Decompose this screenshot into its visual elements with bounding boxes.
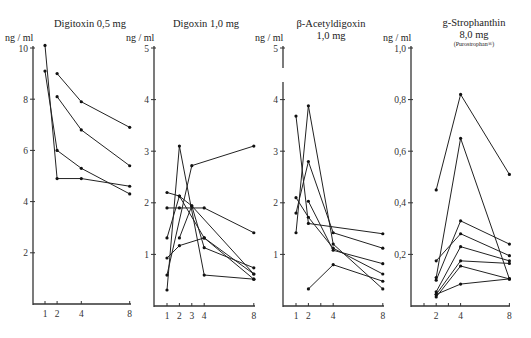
data-point [459, 264, 462, 267]
y-tick-label: 0,2 [394, 250, 406, 260]
data-point [165, 191, 168, 194]
series-4 [56, 95, 132, 167]
data-point [190, 164, 193, 167]
y-tick-label: 2 [23, 248, 28, 258]
chart-panel-2: Digoxin 1,0 mgng / ml1234512348 [126, 18, 256, 321]
x-tick-label: 1 [294, 311, 299, 321]
data-point [332, 231, 335, 234]
data-point [307, 222, 310, 225]
data-point [80, 128, 83, 131]
data-point [381, 247, 384, 250]
series-1 [43, 44, 131, 188]
cardiac-glycoside-concentration-charts: Digitoxin 0,5 mgng / ml2468101248Digoxin… [0, 0, 531, 338]
y-tick-label: 5 [144, 44, 149, 54]
data-point [435, 279, 438, 282]
panel-title: Digoxin 1,0 mg [173, 18, 240, 29]
x-tick-label: 2 [306, 311, 311, 321]
data-point [43, 69, 46, 72]
data-point [203, 246, 206, 249]
data-point [381, 280, 384, 283]
data-point [307, 216, 310, 219]
panel-subtitle: 8,0 mg [459, 29, 489, 40]
data-point [381, 262, 384, 265]
data-point [435, 188, 438, 191]
y-tick-label: 4 [144, 95, 149, 105]
data-point [43, 44, 46, 47]
data-point [56, 177, 59, 180]
x-tick-label: 2 [177, 311, 182, 321]
data-point [459, 282, 462, 285]
data-point [190, 204, 193, 207]
x-tick-label: 4 [458, 311, 463, 321]
data-point [80, 100, 83, 103]
data-point [252, 231, 255, 234]
data-point [294, 115, 297, 118]
data-point [459, 259, 462, 262]
y-tick-label: 3 [144, 147, 149, 157]
x-tick-label: 2 [434, 311, 439, 321]
data-point [178, 194, 181, 197]
data-point [80, 177, 83, 180]
data-point [128, 192, 131, 195]
y-tick-label: 6 [23, 146, 28, 156]
data-point [307, 287, 310, 290]
series-line [167, 192, 254, 274]
x-tick-label: 3 [189, 311, 194, 321]
y-axis-label: ng / ml [126, 32, 155, 43]
data-point [178, 144, 181, 147]
data-point [252, 272, 255, 275]
series-line [296, 198, 383, 274]
x-tick-label: 8 [251, 311, 256, 321]
series-1 [435, 93, 511, 192]
y-tick-label: 1 [144, 250, 149, 260]
data-point [435, 259, 438, 262]
data-point [508, 262, 511, 265]
data-point [80, 167, 83, 170]
x-tick-label: 2 [55, 309, 60, 319]
series-6 [307, 263, 385, 290]
data-point [459, 245, 462, 248]
y-tick-label: 0,6 [394, 147, 406, 157]
chart-panel-3: β-Acetyldigoxin1,0 mgng / ml123451248 [255, 18, 385, 321]
data-point [381, 272, 384, 275]
series-line [57, 74, 130, 128]
data-point [178, 236, 181, 239]
x-tick-label: 8 [507, 311, 512, 321]
panel-title: Digitoxin 0,5 mg [54, 18, 127, 29]
data-point [294, 212, 297, 215]
data-point [459, 232, 462, 235]
x-tick-label: 4 [202, 311, 207, 321]
data-point [56, 95, 59, 98]
series-4 [294, 160, 384, 250]
data-point [332, 249, 335, 252]
data-point [128, 126, 131, 129]
series-line [57, 97, 130, 166]
series-line [436, 94, 509, 189]
series-2 [294, 104, 384, 290]
data-point [459, 137, 462, 140]
data-point [56, 149, 59, 152]
y-tick-label: 2 [144, 198, 149, 208]
series-line [296, 106, 383, 289]
series-line [296, 162, 383, 249]
y-tick-label: 2 [273, 198, 278, 208]
data-point [435, 293, 438, 296]
data-point [203, 273, 206, 276]
data-point [294, 231, 297, 234]
series-7 [178, 204, 256, 275]
panel-title: g-Strophanthin [443, 17, 507, 28]
data-point [508, 254, 511, 257]
data-point [307, 160, 310, 163]
data-point [381, 232, 384, 235]
data-point [459, 219, 462, 222]
data-point [128, 164, 131, 167]
data-point [165, 256, 168, 259]
y-tick-label: 3 [273, 147, 278, 157]
data-point [165, 288, 168, 291]
x-tick-label: 1 [43, 309, 48, 319]
series-line [167, 208, 254, 233]
data-point [252, 144, 255, 147]
y-tick-label: 0,4 [394, 198, 406, 208]
y-tick-label: 10 [19, 44, 29, 54]
data-point [307, 104, 310, 107]
